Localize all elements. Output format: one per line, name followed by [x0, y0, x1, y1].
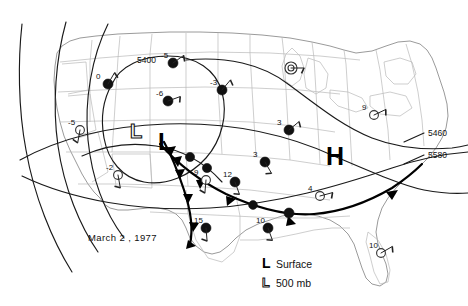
- wind-barb-feather: [184, 56, 185, 62]
- station-temperature-value: -3: [210, 78, 218, 87]
- legend-500mb-label: 500 mb: [276, 277, 311, 289]
- station-temperature-value: -5: [68, 118, 76, 127]
- high-center-surface-symbol: H: [326, 142, 344, 170]
- wind-barb-feather: [202, 239, 208, 241]
- wind-barb-feather: [266, 173, 272, 174]
- station-temperature-value: -5: [161, 51, 169, 60]
- contour-label-5460: 5460: [428, 128, 447, 138]
- station-plot: 9: [362, 103, 386, 119]
- low-center-500mb-symbol: L: [130, 120, 142, 142]
- station-temperature-value: 10: [369, 241, 378, 250]
- station-temperature-value: 3: [277, 118, 282, 127]
- station-temperature-value: 9: [194, 168, 199, 177]
- station-temperature-value: 3: [253, 150, 258, 159]
- station-plot: -6: [156, 89, 180, 106]
- station-plot: 10: [369, 241, 393, 257]
- front-node: [284, 208, 294, 218]
- legend-surface-label: Surface: [276, 258, 312, 270]
- front-barb-triangle: [183, 194, 193, 204]
- wind-barb-feather: [267, 240, 273, 241]
- station-plot: 0: [96, 72, 118, 89]
- front-node: [249, 201, 258, 210]
- station-plot: [285, 62, 304, 74]
- station-temperature-value: -2: [106, 163, 114, 172]
- wind-barb-feather: [302, 68, 305, 73]
- station-temperature-value: 15: [194, 216, 203, 225]
- fronts-group: [160, 142, 422, 249]
- low-center-surface-symbol: L: [158, 128, 173, 155]
- state-border-v6: [250, 34, 256, 156]
- contour-label-5580: 5580: [428, 150, 447, 160]
- station-temperature-value: 4: [308, 184, 313, 193]
- station-temperature-value: -6: [156, 89, 164, 98]
- station-plot: 15: [194, 216, 211, 241]
- wind-barb-feather: [234, 194, 240, 195]
- station-plot: 3: [253, 150, 272, 174]
- state-border-v11: [406, 44, 424, 146]
- state-border-v7: [282, 37, 290, 160]
- state-border-west1: [62, 62, 88, 94]
- map-legend: L Surface L 500 mb: [262, 255, 312, 290]
- station-temperature-value: 12: [223, 170, 232, 179]
- wind-barb-feather: [180, 97, 181, 103]
- wind-barb-feather: [73, 139, 78, 142]
- station-temperature-value: 10: [256, 216, 265, 225]
- legend-surface-symbol: L: [262, 255, 271, 271]
- weather-map-figure: 0-5-6-3-5-29121533410109 5400 5460 5580 …: [0, 0, 468, 306]
- station-temperature-value: 9: [362, 103, 367, 112]
- station-plot: -3: [210, 78, 233, 95]
- weather-map-canvas: 0-5-6-3-5-29121533410109 5400 5460 5580 …: [0, 0, 468, 306]
- legend-500mb-symbol: L: [262, 276, 270, 290]
- contour-mid-1: [82, 144, 222, 182]
- state-border-v4: [186, 33, 188, 186]
- wind-barb-feather: [332, 193, 333, 199]
- contour-label-5400: 5400: [137, 55, 156, 65]
- station-plot: 12: [223, 170, 240, 194]
- state-border-ne1: [384, 58, 416, 84]
- state-border-florida: [366, 232, 390, 284]
- state-border-gulf: [240, 228, 350, 240]
- front-node: [185, 152, 194, 161]
- date-label: March 2 , 1977: [88, 232, 157, 243]
- station-temperature-value: 0: [96, 72, 101, 81]
- contour-leader-5460: [404, 133, 424, 142]
- wind-barb-feather: [230, 80, 233, 86]
- cold-front-gulf: [160, 144, 422, 214]
- front-barb-triangle: [175, 169, 185, 179]
- front-node: [202, 163, 211, 172]
- state-border-v9: [344, 50, 352, 166]
- state-border-v2: [112, 36, 120, 152]
- wind-barb-feather: [200, 190, 205, 193]
- wind-barb-feather: [392, 247, 393, 253]
